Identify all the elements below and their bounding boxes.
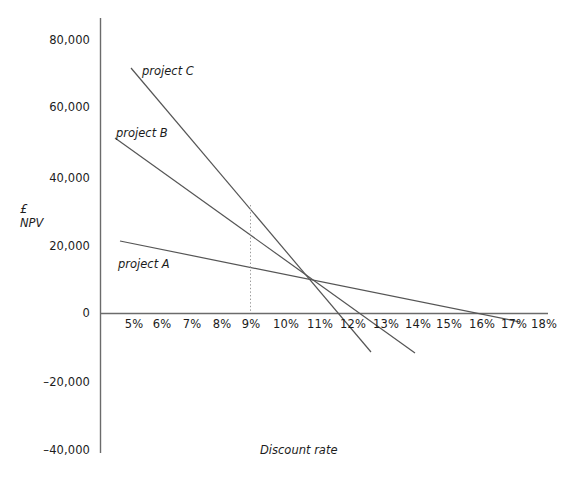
- series-label-project-b: project B: [116, 127, 168, 139]
- x-tick-label-18: 18%: [524, 318, 564, 330]
- y-tick-label-80000: 80,000: [24, 34, 90, 46]
- y-axis-title-line-npv: NPV: [20, 216, 43, 230]
- x-tick-label-9: 9%: [235, 318, 267, 330]
- series-line-project-a: [120, 241, 520, 322]
- x-tick-label-8: 8%: [206, 318, 238, 330]
- y-axis-title: £ NPV: [20, 202, 43, 231]
- y-axis-title-line-currency: £: [20, 202, 43, 216]
- y-tick-label-40000: 40,000: [24, 172, 90, 184]
- x-axis-title: Discount rate: [260, 444, 338, 456]
- y-tick-label-20000: 20,000: [24, 240, 90, 252]
- x-tick-label-7: 7%: [176, 318, 208, 330]
- y-tick-label-minus-40000: –40,000: [18, 444, 90, 456]
- series-label-project-a: project A: [118, 258, 170, 270]
- npv-discount-rate-chart: 80,000 60,000 40,000 20,000 0 –20,000 –4…: [0, 0, 567, 478]
- y-tick-label-0: 0: [24, 307, 90, 319]
- y-tick-label-60000: 60,000: [24, 101, 90, 113]
- y-tick-label-minus-20000: –20,000: [18, 376, 90, 388]
- series-label-project-c: project C: [142, 65, 194, 77]
- x-tick-label-6: 6%: [146, 318, 178, 330]
